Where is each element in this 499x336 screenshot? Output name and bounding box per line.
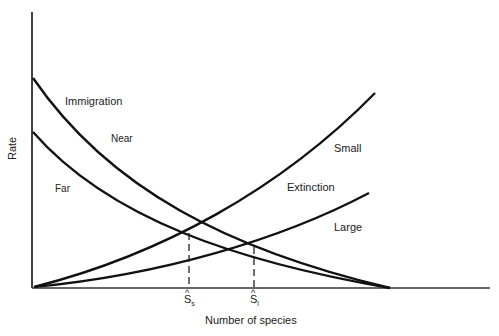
extinction-label: Extinction: [287, 182, 335, 193]
near-label: Near: [111, 134, 133, 144]
y-axis-label: Rate: [6, 137, 18, 160]
subscript-l: l: [257, 300, 259, 307]
immigration-label: Immigration: [65, 96, 122, 107]
x-axis-label: Number of species: [205, 315, 297, 326]
far-label: Far: [55, 184, 70, 194]
hat-mark: ^: [251, 289, 255, 298]
small-label: Small: [334, 143, 362, 154]
hat-mark: ^: [185, 289, 189, 298]
immigration-near-curve: [33, 78, 390, 288]
chart-canvas: [0, 0, 499, 336]
s-hat-small-label: ^Ss: [184, 294, 195, 307]
subscript-s: s: [191, 300, 195, 307]
large-label: Large: [334, 222, 362, 233]
s-hat-large-label: ^Sl: [250, 294, 259, 307]
